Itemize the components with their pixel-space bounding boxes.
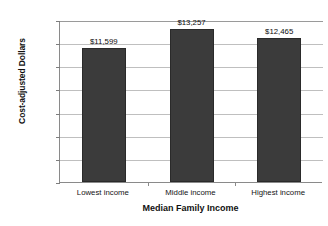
y-tick-mark — [56, 67, 60, 68]
x-category-label: Lowest income — [77, 188, 129, 197]
x-axis-title: Median Family Income — [59, 203, 322, 213]
x-tick-mark — [148, 182, 149, 186]
y-tick-mark — [56, 137, 60, 138]
plot-area: 02,0004,0006,0008,00010,00012,00014,000$… — [59, 21, 322, 183]
y-tick-mark — [56, 44, 60, 45]
bar-chart-figure: Cost-adjusted Dollars 02,0004,0006,0008,… — [0, 0, 328, 226]
y-tick-mark — [56, 90, 60, 91]
y-tick-mark — [56, 160, 60, 161]
x-category-label: Highest income — [251, 188, 305, 197]
x-tick-mark — [235, 182, 236, 186]
y-tick-mark — [56, 183, 60, 184]
bar-value-label: $13,257 — [177, 18, 205, 27]
bar-value-label: $12,465 — [265, 27, 293, 36]
bar — [170, 29, 214, 182]
y-axis-title: Cost-adjusted Dollars — [17, 16, 27, 146]
bar — [82, 48, 126, 182]
bar-value-label: $11,599 — [90, 37, 118, 46]
bar — [257, 38, 301, 182]
y-tick-mark — [56, 114, 60, 115]
y-tick-mark — [56, 21, 60, 22]
x-category-label: Middle income — [165, 188, 215, 197]
